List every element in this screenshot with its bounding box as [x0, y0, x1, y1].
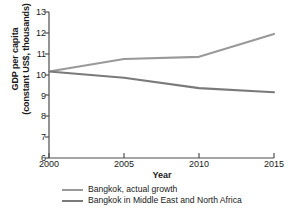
x-tick-label: 2010	[179, 159, 219, 169]
x-axis-label: Year	[49, 170, 275, 180]
legend-item-bangkok-actual-growth: Bangkok, actual growth	[62, 184, 242, 195]
x-tick-label: 2000	[29, 159, 69, 169]
legend-swatch-icon	[62, 200, 83, 202]
x-axis-ticks	[49, 153, 274, 158]
legend-item-bangkok-mena: Bangkok in Middle East and North Africa	[62, 195, 242, 206]
x-tick-label: 2015	[254, 159, 290, 169]
legend-label: Bangkok, actual growth	[88, 184, 177, 195]
line-series-bangkok-actual-growth	[49, 34, 274, 72]
x-tick-label: 2005	[104, 159, 144, 169]
legend-label: Bangkok in Middle East and North Africa	[88, 195, 242, 206]
legend-swatch-icon	[62, 189, 83, 191]
chart-legend: Bangkok, actual growth Bangkok in Middle…	[62, 184, 242, 206]
chart-container: GDP per capita (constant US$, thousands)…	[0, 0, 290, 217]
line-series-bangkok-mena	[49, 71, 274, 92]
